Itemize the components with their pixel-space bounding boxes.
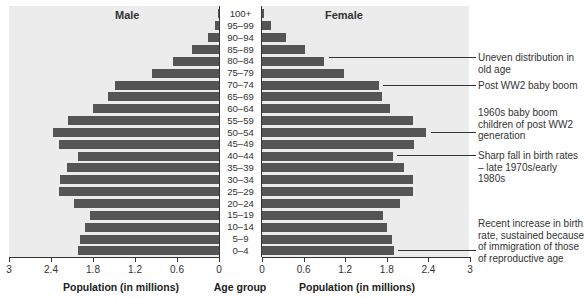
tick-mark (135, 257, 136, 262)
age-group-label: 65–69 (219, 91, 262, 103)
annotation-text: 1960s baby boom children of post WW2 gen… (478, 107, 586, 142)
male-bar (74, 199, 219, 208)
male-x-axis (9, 257, 219, 258)
tick-label: 1.2 (128, 264, 142, 275)
age-group-label: 0–4 (219, 245, 262, 257)
age-group-label: 30–34 (219, 174, 262, 186)
female-bar (262, 92, 382, 101)
female-x-axis (262, 257, 470, 258)
male-bar (53, 128, 219, 137)
male-bar (59, 187, 219, 196)
female-title: Female (325, 9, 363, 21)
tick-mark (345, 257, 346, 262)
female-bar (262, 69, 344, 78)
female-bar (262, 81, 379, 90)
tick-label: 2.4 (421, 264, 435, 275)
age-group-label: 70–74 (219, 79, 262, 91)
tick-label: 1.8 (380, 264, 394, 275)
male-bar (90, 211, 219, 220)
tick-mark (470, 257, 471, 262)
tick-mark (177, 257, 178, 262)
female-bar (262, 199, 400, 208)
female-bar (262, 223, 387, 232)
age-group-label: 25–29 (219, 186, 262, 198)
female-bar (262, 246, 394, 255)
female-bar (262, 235, 392, 244)
age-group-label: 85–89 (219, 44, 262, 56)
male-bar (78, 152, 219, 161)
tick-label: 3 (467, 264, 473, 275)
male-title: Male (115, 9, 139, 21)
female-axis-title: Population (in millions) (299, 281, 415, 293)
tick-mark (93, 257, 94, 262)
annotation-text: Sharp fall in birth rates – late 1970s/e… (478, 150, 586, 185)
female-bar (262, 45, 305, 54)
annotation-leader-line (383, 85, 476, 86)
tick-label: 3 (6, 264, 12, 275)
age-group-label: 20–24 (219, 198, 262, 210)
annotation-leader-line (431, 132, 476, 133)
age-group-label: 55–59 (219, 115, 262, 127)
tick-mark (51, 257, 52, 262)
female-bar (262, 128, 426, 137)
age-group-label: 40–44 (219, 150, 262, 162)
age-group-label: 50–54 (219, 127, 262, 139)
female-bar (262, 116, 413, 125)
female-bar (262, 57, 324, 66)
age-group-label: 90–94 (219, 32, 262, 44)
tick-label: 0.6 (170, 264, 184, 275)
female-bar (262, 187, 413, 196)
age-group-label: 5–9 (219, 233, 262, 245)
male-bar (59, 140, 219, 149)
female-bar (262, 21, 271, 30)
female-bar (262, 33, 286, 42)
annotation-leader-line (329, 57, 476, 58)
female-bar (262, 163, 404, 172)
male-bar (192, 45, 219, 54)
annotation-text: Uneven distribution in old age (478, 52, 586, 75)
male-bar (67, 163, 219, 172)
annotation-leader-line (398, 250, 476, 251)
tick-mark (304, 257, 305, 262)
tick-mark (9, 257, 10, 262)
age-group-label: 35–39 (219, 162, 262, 174)
male-axis-title: Population (in millions) (63, 281, 179, 293)
age-group-label: 10–14 (219, 221, 262, 233)
male-bar (85, 223, 219, 232)
age-group-label: 15–19 (219, 209, 262, 221)
male-bar (208, 33, 219, 42)
age-group-label: 60–64 (219, 103, 262, 115)
age-group-label: 95–99 (219, 20, 262, 32)
male-bar (78, 246, 219, 255)
female-bar (262, 9, 264, 18)
age-group-label: 80–84 (219, 55, 262, 67)
female-bar (262, 104, 390, 113)
male-bar (115, 81, 219, 90)
annotation-text: Post WW2 baby boom (478, 80, 586, 92)
age-group-label: 45–49 (219, 138, 262, 150)
male-bar (80, 235, 219, 244)
annotation-leader-line (397, 155, 476, 156)
age-group-label: 100+ (219, 8, 262, 20)
tick-mark (387, 257, 388, 262)
tick-label: 0 (216, 264, 222, 275)
male-bar (108, 92, 219, 101)
female-bar (262, 175, 413, 184)
tick-label: 2.4 (44, 264, 58, 275)
male-bar (60, 175, 219, 184)
male-bar (68, 116, 219, 125)
tick-label: 1.2 (338, 264, 352, 275)
male-bar (152, 69, 219, 78)
male-bar (93, 104, 219, 113)
tick-mark (428, 257, 429, 262)
tick-mark (262, 257, 263, 262)
tick-label: 0.6 (297, 264, 311, 275)
tick-label: 0 (259, 264, 265, 275)
tick-label: 1.8 (86, 264, 100, 275)
tick-mark (219, 257, 220, 262)
female-bar (262, 211, 383, 220)
age-group-label: 75–79 (219, 67, 262, 79)
female-bar (262, 140, 414, 149)
age-axis-title: Age group (214, 281, 267, 293)
annotation-text: Recent increase in birth rate, sustained… (478, 218, 586, 264)
